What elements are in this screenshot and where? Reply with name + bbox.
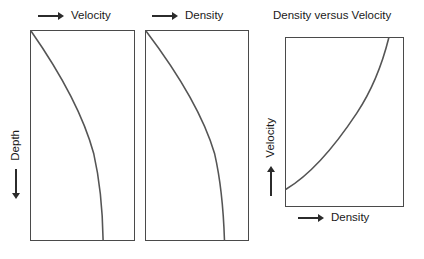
density-velocity-panel	[285, 37, 404, 207]
density-top-axis-label: Density	[152, 10, 223, 22]
scatter-panel-title: Density versus Velocity	[273, 10, 391, 22]
figure-canvas: Velocity Depth Density Density versus Ve…	[0, 0, 424, 259]
arrow-up-icon	[266, 166, 275, 196]
density-label-text: Density	[185, 10, 223, 22]
density-x-label-text: Density	[331, 212, 369, 224]
density-velocity-plot	[286, 38, 403, 206]
velocity-top-axis-label: Velocity	[38, 10, 111, 22]
arrow-right-icon	[298, 213, 324, 222]
density-depth-panel	[145, 30, 249, 241]
arrow-right-icon	[152, 11, 178, 20]
depth-label-text: Depth	[10, 130, 22, 161]
velocity-y-axis-label: Velocity	[265, 118, 277, 196]
density-depth-curve	[146, 31, 224, 240]
velocity-depth-panel	[30, 30, 135, 241]
velocity-y-label-text: Velocity	[265, 118, 277, 158]
density-x-axis-label: Density	[298, 212, 369, 224]
arrow-down-icon	[11, 169, 20, 199]
velocity-label-text: Velocity	[71, 10, 111, 22]
density-velocity-curve	[286, 38, 389, 189]
density-depth-plot	[146, 31, 248, 240]
arrow-right-icon	[38, 11, 64, 20]
velocity-depth-curve	[31, 31, 103, 240]
velocity-depth-plot	[31, 31, 134, 240]
depth-axis-label: Depth	[10, 130, 22, 199]
